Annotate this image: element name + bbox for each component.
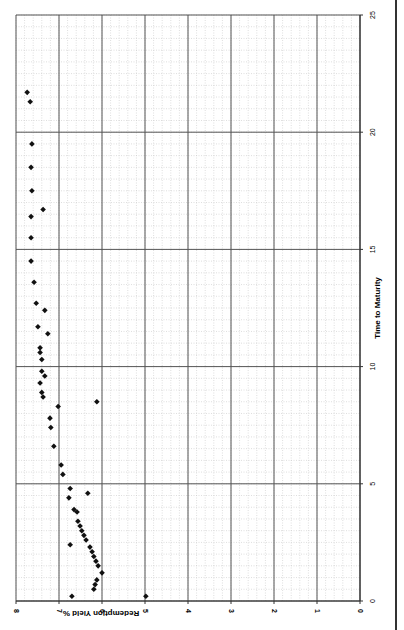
data-point-marker: [79, 528, 85, 534]
data-point-marker: [28, 214, 34, 220]
data-point-marker: [83, 537, 89, 543]
scatter-chart: 012345678 0510152025 Redemption Yield % …: [0, 0, 404, 630]
data-point-marker: [33, 301, 39, 307]
data-point-marker: [24, 90, 30, 96]
data-point-marker: [40, 207, 46, 213]
yield-tick-label: 5: [142, 609, 149, 613]
data-point-marker: [51, 443, 57, 449]
data-point-marker: [45, 331, 51, 337]
axes: [16, 15, 363, 604]
data-point-marker: [48, 425, 54, 431]
time-tick-label: 15: [369, 245, 376, 253]
data-point-marker: [37, 380, 43, 386]
data-point-marker: [81, 533, 87, 539]
data-point-marker: [60, 472, 66, 478]
data-point-marker: [91, 586, 97, 592]
data-point-marker: [35, 324, 41, 330]
data-point-marker: [39, 390, 45, 396]
data-point-marker: [87, 544, 93, 550]
data-point-marker: [85, 490, 91, 496]
data-point-marker: [95, 563, 101, 569]
data-point-marker: [93, 558, 99, 564]
data-point-marker: [39, 357, 45, 363]
data-point-marker: [67, 542, 73, 548]
data-point-marker: [47, 415, 53, 421]
data-point-marker: [143, 594, 149, 600]
data-point-marker: [66, 495, 72, 501]
data-point-marker: [31, 279, 37, 285]
data-point-marker: [39, 368, 45, 374]
time-tick-label: 10: [369, 363, 376, 371]
yield-tick-label: 1: [314, 609, 321, 613]
data-point-marker: [67, 486, 73, 492]
yield-tick-label: 2: [271, 609, 278, 613]
yield-tick-label: 7: [56, 609, 63, 613]
yield-tick-label: 4: [185, 609, 192, 613]
data-point-marker: [94, 399, 100, 405]
data-point-marker: [29, 141, 35, 147]
data-point-marker: [99, 570, 105, 576]
data-point-marker: [42, 308, 48, 314]
time-tick-label: 20: [369, 128, 376, 136]
data-point-marker: [29, 188, 35, 194]
yield-axis-label: Redemption Yield %: [63, 609, 139, 618]
yield-tick-label: 3: [228, 609, 235, 613]
time-tick-label: 0: [369, 599, 376, 603]
data-point-marker: [91, 554, 97, 560]
data-point-marker: [77, 523, 83, 529]
data-point-marker: [27, 99, 33, 105]
data-point-marker: [42, 373, 48, 379]
data-point-marker: [89, 549, 95, 555]
data-point-marker: [55, 404, 61, 410]
data-point-marker: [40, 394, 46, 400]
yield-tick-label: 8: [13, 609, 20, 613]
yield-tick-label: 0: [357, 609, 364, 613]
time-tick-label: 25: [369, 11, 376, 19]
time-tick-label: 5: [369, 482, 376, 486]
time-axis-label: Time to Maturity: [373, 277, 382, 339]
data-points: [24, 90, 148, 600]
data-point-marker: [94, 577, 100, 583]
data-point-marker: [69, 594, 75, 600]
